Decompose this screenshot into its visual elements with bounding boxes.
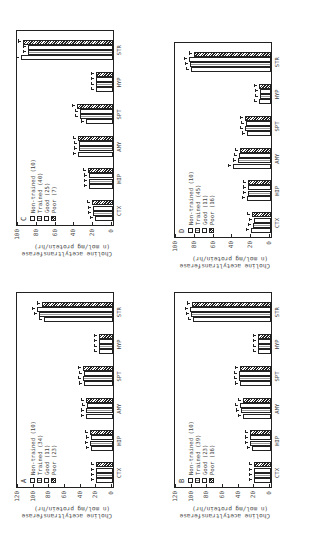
- bar: [239, 153, 271, 158]
- legend-swatch: [188, 228, 193, 233]
- x-tick-label: HIP: [274, 431, 280, 451]
- legend-swatch: [44, 216, 49, 221]
- legend: Non-trained (10)Trained (45)Good (11)Poo…: [187, 171, 215, 233]
- bar: [78, 136, 113, 141]
- y-tick-label: 40: [234, 491, 241, 509]
- bar: [258, 344, 271, 349]
- legend-label: Good (23): [202, 445, 208, 475]
- bar: [243, 414, 271, 419]
- bar: [254, 468, 271, 473]
- bar: [191, 67, 271, 72]
- x-tick-label: SPT: [274, 367, 280, 387]
- y-tick-label: 60: [218, 491, 225, 509]
- bar: [86, 408, 113, 413]
- bar: [79, 141, 113, 146]
- bar: [192, 302, 271, 307]
- legend-label: Poor (16): [209, 195, 215, 225]
- bar: [78, 152, 113, 157]
- legend: Non-trained (10)Trained (40)Good (25)Poo…: [29, 159, 57, 221]
- legend-label: Trained (40): [37, 173, 43, 213]
- legend-item: Trained (34): [36, 421, 43, 483]
- x-tick-label: HIP: [274, 181, 280, 201]
- bar: [23, 40, 113, 45]
- x-tick-label: CTX: [116, 463, 122, 483]
- legend-item: Good (11): [201, 171, 208, 233]
- y-axis-label: Choline acetyltransferase(n mol/mg prote…: [12, 244, 122, 258]
- bar: [190, 62, 271, 67]
- bar: [28, 45, 113, 50]
- bar: [87, 403, 113, 408]
- y-tick-label: 0: [265, 491, 272, 509]
- panel-d: Choline acetyltransferase(n mol/mg prote…: [170, 40, 290, 270]
- bar: [96, 87, 113, 92]
- bar: [80, 109, 113, 114]
- y-tick-label: 120: [171, 491, 178, 509]
- y-tick-label: 80: [190, 241, 197, 259]
- y-tick-label: 80: [32, 229, 39, 247]
- bar: [252, 212, 271, 217]
- bar: [240, 382, 271, 387]
- bar: [240, 148, 271, 153]
- x-tick-label: HYP: [274, 334, 280, 354]
- legend-swatch: [188, 478, 193, 483]
- bar: [83, 376, 113, 381]
- bar: [245, 116, 271, 121]
- x-tick-label: AMY: [116, 137, 122, 157]
- x-tick-label: STR: [116, 302, 122, 322]
- bar: [258, 349, 271, 354]
- bar: [233, 164, 271, 169]
- y-tick-label: 20: [91, 491, 98, 509]
- panel-letter: C: [20, 217, 28, 221]
- y-tick-label: 80: [202, 491, 209, 509]
- bar: [190, 307, 271, 312]
- bar: [90, 441, 113, 446]
- bar: [250, 430, 271, 435]
- x-tick-label: SPT: [116, 105, 122, 125]
- bar: [89, 173, 113, 178]
- y-tick-label: 100: [13, 229, 20, 247]
- x-tick-label: CTX: [274, 463, 280, 483]
- legend-label: Good (11): [202, 195, 208, 225]
- bar: [90, 430, 113, 435]
- chart-panel-d: Choline acetyltransferase(n mol/mg prote…: [170, 40, 290, 270]
- bar: [260, 89, 271, 94]
- bar: [42, 302, 113, 307]
- y-tick-label: 100: [29, 491, 36, 509]
- bar: [96, 72, 113, 77]
- bar: [44, 317, 113, 322]
- y-tick-label: 60: [51, 229, 58, 247]
- bar: [80, 114, 113, 119]
- bar: [96, 473, 113, 478]
- bar: [240, 366, 271, 371]
- x-tick-label: AMY: [116, 399, 122, 419]
- bar: [248, 185, 271, 190]
- bar: [21, 55, 113, 60]
- bar: [89, 184, 113, 189]
- x-tick-label: HIP: [116, 169, 122, 189]
- legend-label: Non-trained (10): [30, 421, 36, 475]
- bar: [99, 344, 113, 349]
- bar: [248, 191, 271, 196]
- legend-item: Non-trained (10): [29, 421, 36, 483]
- x-tick-label: CTX: [274, 213, 280, 233]
- bar: [191, 312, 271, 317]
- y-tick-label: 0: [265, 241, 272, 259]
- bar: [99, 334, 113, 339]
- x-tick-label: CTX: [116, 201, 122, 221]
- legend: Non-trained (10)Trained (34)Good (11)Poo…: [29, 421, 57, 483]
- bar: [248, 180, 271, 185]
- y-tick-label: 20: [249, 491, 256, 509]
- y-tick-label: 60: [60, 491, 67, 509]
- legend-label: Good (11): [44, 445, 50, 475]
- bar: [79, 146, 113, 151]
- panel-letter: A: [20, 479, 28, 483]
- legend-item: Non-trained (10): [29, 159, 36, 221]
- plot-area: 020406080100120ANon-trained (10)Trained …: [16, 292, 114, 488]
- bar: [250, 441, 271, 446]
- legend-swatch: [51, 216, 56, 221]
- panel-b: Choline acetyltransferase(n mol/mg prote…: [170, 290, 290, 520]
- x-tick-label: HYP: [116, 334, 122, 354]
- legend-label: Non-trained (10): [30, 159, 36, 213]
- chart-panel-c: Choline acetyltransferase(n mol/mg prote…: [12, 28, 132, 258]
- chart-panel-b: Choline acetyltransferase(n mol/mg prote…: [170, 290, 290, 520]
